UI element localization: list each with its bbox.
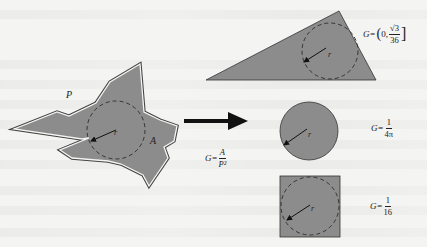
close-bracket: ]: [401, 25, 406, 43]
formula-lhs: G=: [363, 29, 376, 39]
perimeter-label: P: [66, 89, 72, 100]
transform-arrow: [184, 112, 248, 130]
formula-lhs: G=: [370, 201, 383, 211]
formula-lhs: G=: [371, 123, 384, 133]
fraction: A P²: [219, 148, 227, 168]
lower-bound: 0,: [381, 29, 388, 39]
area-label: A: [150, 135, 156, 146]
formula-general: G= A P²: [205, 148, 226, 168]
formula-triangle: G= ( 0, √3 36 ]: [363, 24, 406, 44]
triangle-shape: [206, 11, 376, 80]
formula-square: G= 1 16: [370, 196, 392, 216]
numerator: 1: [385, 196, 391, 207]
formula-circle: G= 1 4π: [371, 118, 393, 138]
numerator: A: [219, 148, 226, 159]
radius-label: r: [114, 128, 117, 137]
radius-label: r: [308, 130, 311, 139]
numerator: 1: [386, 118, 392, 129]
radius-label: r: [328, 50, 331, 59]
radius-label: r: [311, 204, 314, 213]
denominator: P²: [219, 159, 227, 169]
denominator: 4π: [385, 129, 394, 139]
fraction: 1 4π: [385, 118, 394, 138]
formula-lhs: G=: [205, 153, 218, 163]
irregular-polygon: [14, 64, 177, 186]
denominator: 16: [384, 207, 393, 217]
square-shape: [280, 176, 340, 237]
fraction: √3 36: [389, 24, 400, 44]
numerator: √3: [389, 24, 400, 35]
fraction: 1 16: [384, 196, 393, 216]
denominator: 36: [390, 35, 399, 45]
